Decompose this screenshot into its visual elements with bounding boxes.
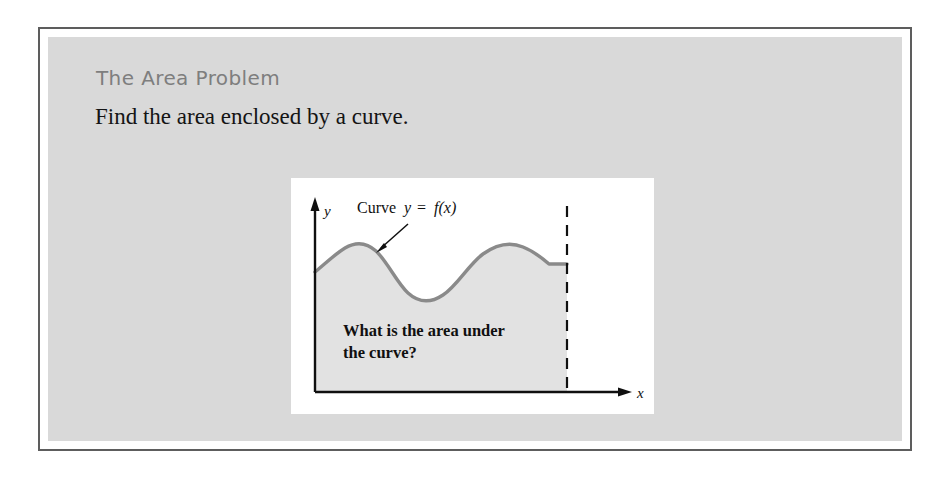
area-under-curve-figure: y x Curve y = f(x) What is the area unde… — [291, 178, 654, 414]
x-axis-label: x — [636, 385, 644, 401]
y-axis-label: y — [322, 203, 331, 219]
figure-panel: y x Curve y = f(x) What is the area unde… — [291, 178, 654, 414]
question-line-1: What is the area under — [343, 321, 505, 340]
slide-subtitle: Find the area enclosed by a curve. — [95, 104, 409, 130]
page-canvas: The Area Problem Find the area enclosed … — [0, 0, 950, 490]
question-line-2: the curve? — [343, 343, 417, 362]
slide-content-panel: The Area Problem Find the area enclosed … — [48, 37, 902, 441]
shaded-area-under-curve — [315, 243, 567, 392]
y-axis-arrowhead — [311, 197, 320, 211]
curve-label-prefix: Curve — [357, 199, 396, 216]
curve-label-function: f(x) — [434, 199, 456, 217]
curve-label-variable: y — [402, 199, 412, 217]
x-axis-arrowhead — [618, 388, 632, 397]
curve-label-equals: = — [417, 199, 426, 216]
slide-frame: The Area Problem Find the area enclosed … — [38, 27, 912, 451]
page-title: The Area Problem — [96, 66, 280, 90]
